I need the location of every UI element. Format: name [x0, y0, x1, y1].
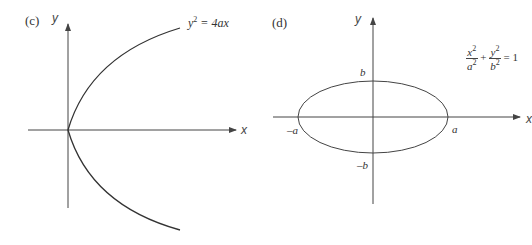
parabola-curve [68, 28, 180, 230]
panel-d-y-label: y [355, 13, 361, 25]
panel-d-label: (d) [272, 16, 287, 29]
panel-c-equation: y2 = 4ax [188, 16, 229, 29]
intercept-neg-b-label: –b [357, 160, 368, 171]
panel-c-y-label: y [52, 12, 58, 24]
panel-c-label: (c) [25, 14, 39, 27]
intercept-a-label: a [452, 124, 458, 135]
intercept-b-label: b [360, 67, 366, 78]
fraction-y-over-b: y2b2 [489, 45, 501, 71]
intercept-neg-a-label: –a [287, 125, 298, 136]
fraction-x-over-a: x2a2 [466, 45, 478, 71]
panel-d-equation: x2a2 + y2b2 = 1 [466, 45, 518, 71]
panel-c-graph [28, 24, 236, 230]
panel-c-x-label: x [241, 124, 247, 136]
panel-d-x-label: x [526, 113, 532, 125]
